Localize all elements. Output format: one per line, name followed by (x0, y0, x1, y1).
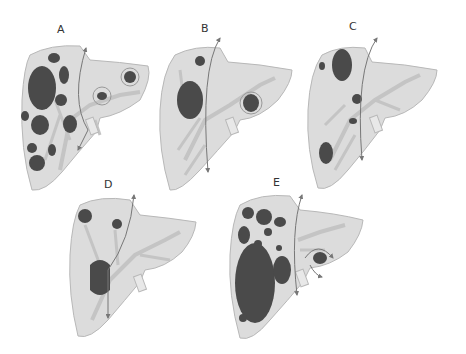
panel-b-liver (160, 38, 292, 190)
panel-label-d: D (104, 178, 112, 191)
panel-label-a: A (57, 23, 65, 36)
panel-c-liver (308, 38, 437, 189)
panel-d-liver (70, 195, 196, 337)
panel-a-liver (21, 46, 149, 190)
panel-label-e: E (273, 176, 280, 189)
liver-diagram-canvas: A B C D (0, 0, 466, 354)
panel-label-c: C (349, 20, 357, 33)
panel-label-b: B (201, 22, 209, 35)
panel-e-liver (230, 195, 363, 339)
